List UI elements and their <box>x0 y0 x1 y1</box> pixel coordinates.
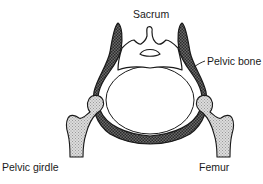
pelvic-bone-label: Pelvic bone <box>207 56 261 67</box>
pelvic-girdle-label: Pelvic girdle <box>2 162 59 173</box>
sacrum <box>118 27 182 70</box>
pelvic-girdle-diagram: Sacrum Pelvic bone Pelvic girdle Femur <box>0 0 263 184</box>
right-femur <box>196 95 233 157</box>
pelvic-bone-leader-line <box>194 61 205 67</box>
femur-label: Femur <box>199 162 229 173</box>
diagram-canvas <box>0 0 263 184</box>
left-femur <box>67 95 104 157</box>
sacrum-label: Sacrum <box>133 9 169 20</box>
